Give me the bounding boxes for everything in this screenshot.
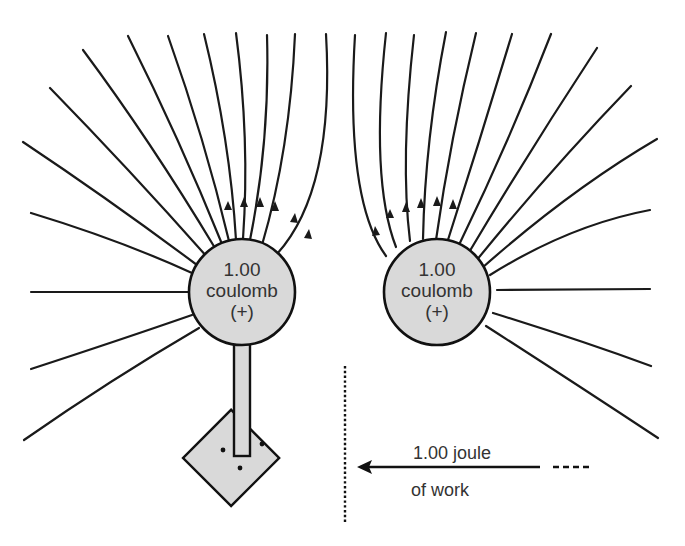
- left-charge-sign: (+): [187, 301, 297, 322]
- charge-holder: [183, 344, 279, 506]
- left-charge-unit: coulomb: [187, 280, 297, 301]
- left-charge-value: 1.00: [187, 259, 297, 280]
- left-arrowheads: [224, 197, 312, 239]
- work-label-line1: 1.00 joule: [413, 443, 491, 463]
- right-charge-label: 1.00 coulomb (+): [382, 259, 492, 322]
- right-field-lines: [353, 32, 658, 438]
- bolt: [238, 466, 243, 471]
- left-field-lines: [23, 33, 327, 440]
- right-charge-value: 1.00: [382, 259, 492, 280]
- bolt: [221, 448, 226, 453]
- left-charge-label: 1.00 coulomb (+): [187, 259, 297, 322]
- handle-rod: [234, 344, 250, 456]
- right-charge-sign: (+): [382, 301, 492, 322]
- electric-field-diagram: 1.00 coulomb (+) 1.00 coulomb (+) 1.00 j…: [0, 0, 685, 546]
- work-label-line2: of work: [411, 480, 469, 500]
- field-lines-canvas: [0, 0, 685, 546]
- bolt: [260, 442, 265, 447]
- mounting-plate: [183, 410, 279, 506]
- right-charge-unit: coulomb: [382, 280, 492, 301]
